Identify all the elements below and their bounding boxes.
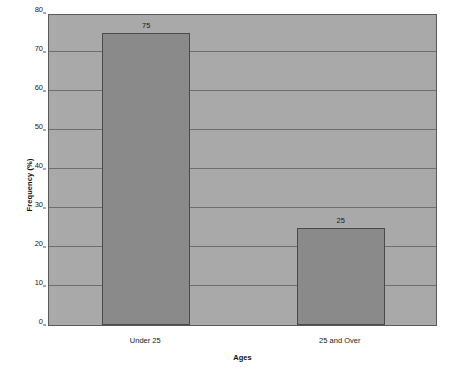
- y-axis-tick-mark: [43, 52, 46, 53]
- y-axis-tick-label: 70: [35, 45, 43, 53]
- y-axis-tick-label: 30: [35, 201, 43, 209]
- x-axis-title: Ages: [48, 353, 437, 362]
- bar-value-label: 25: [337, 216, 345, 225]
- y-axis-tick-mark: [43, 325, 46, 326]
- y-axis-tick-label: 50: [35, 123, 43, 131]
- y-axis-tick-label: 20: [35, 240, 43, 248]
- y-axis-tick-label: 40: [35, 162, 43, 170]
- bar-value-label: 75: [142, 21, 150, 30]
- y-axis-tick-mark: [43, 13, 46, 14]
- bar: [297, 228, 385, 326]
- bar-chart: Frequency (%) 80706050403020100 7525 Und…: [0, 0, 463, 370]
- y-axis-tick-mark: [43, 286, 46, 287]
- y-axis-tick-mark: [43, 130, 46, 131]
- y-axis-tick-label: 60: [35, 84, 43, 92]
- y-axis-tick-label: 80: [35, 6, 43, 14]
- y-axis-tick-mark: [43, 169, 46, 170]
- y-axis-tick-mark: [43, 208, 46, 209]
- y-axis-tick-mark: [43, 91, 46, 92]
- y-axis-tick-labels: 80706050403020100: [24, 14, 46, 326]
- plot-area: 7525: [48, 14, 437, 326]
- y-axis-tick-mark: [43, 247, 46, 248]
- bar: [102, 33, 190, 326]
- x-axis-tick-labels: Under 2525 and Over: [48, 336, 437, 348]
- x-axis-tick-label: 25 and Over: [319, 336, 360, 346]
- y-axis-tick-label: 10: [35, 279, 43, 287]
- x-axis-tick-label: Under 25: [130, 336, 161, 346]
